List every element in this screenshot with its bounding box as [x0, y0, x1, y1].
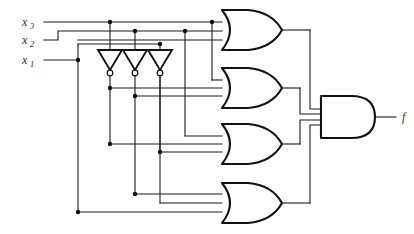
inverter-1-triangle: [98, 50, 122, 70]
input-label-x2-base: x: [21, 33, 28, 47]
input-label-x1-base: x: [21, 53, 28, 67]
input-label-x2-sub: 2: [30, 39, 35, 49]
or-gate-4-body[interactable]: [222, 183, 282, 223]
or-gate-4[interactable]: [222, 183, 310, 223]
wire-or1-to-and: [310, 30, 321, 109]
junction-x2not-or2: [133, 94, 137, 98]
junction-x1not-or3: [158, 150, 162, 154]
inverter-3-bubble: [157, 70, 163, 76]
or-gate-2-body[interactable]: [222, 68, 282, 108]
junction-x2-inv2: [133, 29, 137, 33]
output-label-f: f: [402, 110, 407, 124]
and-gate-body[interactable]: [321, 96, 375, 138]
junction-dots: [76, 20, 214, 214]
junction-x1-or4: [76, 210, 80, 214]
or-gate-2[interactable]: [222, 68, 300, 108]
input-label-x3-sub: 3: [29, 21, 34, 31]
or-gate-1-body[interactable]: [222, 10, 282, 50]
inverter-output-wires: [110, 76, 222, 203]
or-gate-3[interactable]: [222, 124, 300, 164]
input-label-x3-base: x: [21, 15, 28, 29]
junction-x2-or3tap: [183, 29, 187, 33]
inverter-1-bubble: [107, 70, 113, 76]
or-gate-3-body[interactable]: [222, 124, 282, 164]
and-gate[interactable]: [321, 96, 396, 138]
wire-or4-to-and: [310, 125, 321, 203]
inverter-3-triangle: [148, 50, 172, 70]
or-gate-1[interactable]: [222, 10, 310, 50]
junction-x1-bus: [76, 58, 80, 62]
junction-x3-or2tap: [210, 20, 214, 24]
inverter-group: [98, 50, 172, 76]
inverter-2-bubble: [132, 70, 138, 76]
wire-x2-main: [44, 31, 222, 40]
circuit-canvas: x 3 x 2 x 1 f: [0, 0, 414, 234]
junction-x3not-or2: [108, 86, 112, 90]
logic-circuit-diagram: x 3 x 2 x 1 f: [0, 0, 414, 234]
inverter-2-triangle: [123, 50, 147, 70]
input-label-x1-sub: 1: [30, 59, 34, 69]
junction-x1-inv3: [158, 42, 162, 46]
or-to-and-wires: [300, 30, 321, 203]
junction-x3not-or3: [108, 142, 112, 146]
junction-x2not-or4: [133, 192, 137, 196]
junction-x3-inv1: [108, 20, 112, 24]
